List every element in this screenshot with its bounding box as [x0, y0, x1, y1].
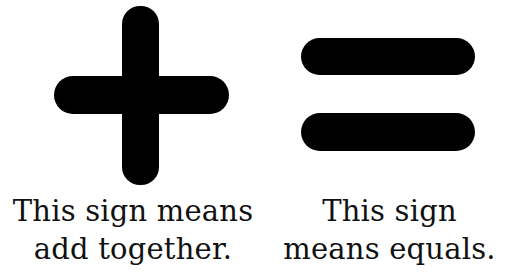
plus-caption-line-1: This sign means — [0, 192, 266, 230]
equals-caption-line-1: This sign — [270, 192, 509, 230]
plus-caption: This sign means add together. — [0, 192, 266, 268]
equals-bottom-bar — [301, 113, 475, 151]
equals-caption: This sign means equals. — [270, 192, 509, 268]
equals-caption-line-2: means equals. — [270, 230, 509, 268]
plus-horizontal-bar — [54, 76, 229, 114]
plus-caption-line-2: add together. — [0, 230, 266, 268]
equals-top-bar — [301, 38, 475, 75]
